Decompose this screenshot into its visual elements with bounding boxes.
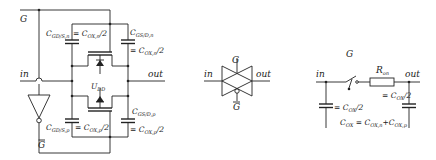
cap-value-gsd-p: = COX,p/2: [130, 125, 164, 136]
cox-equation: COX = COX,n+COX,p: [340, 118, 408, 129]
symbol-output-label: out: [256, 69, 271, 79]
gate-label: G: [20, 14, 27, 24]
transmission-gate-symbol: G G in out: [204, 55, 271, 112]
symbol-gate-bar-label: G: [233, 102, 240, 112]
input-label: in: [20, 69, 29, 79]
cap-value-gds-p: = COX,p/2: [75, 123, 109, 134]
cap-in-label: = COX/2: [334, 103, 364, 113]
model-input-label: in: [316, 69, 325, 79]
symbol-input-label: in: [204, 69, 213, 79]
output-label: out: [148, 69, 163, 79]
left-circuit: G in out G UDD CGD/S,n = COX,n/2 CGS/D,n…: [20, 9, 165, 153]
cap-label-gsd-p: CGS/D,p: [132, 107, 156, 118]
cap-out-label: = COX/2: [382, 91, 412, 101]
cap-label-gds-p: CGD/S,p: [46, 123, 70, 134]
symbol-gate-label: G: [232, 55, 239, 65]
cap-label-gsd-n: CGS/D,n: [130, 28, 154, 38]
model-gate-label: G: [346, 49, 353, 59]
gate-bar-label: G: [38, 140, 45, 150]
cap-value-gsd-n: = COX,n/2: [130, 46, 164, 56]
cap-value-gds-n: = COX,n/2: [73, 29, 107, 39]
cap-label-gds-n: CGD/S,n: [46, 29, 70, 39]
switch-model: G in out Ron = COX/2 = COX/2 COX = COX,n…: [316, 49, 420, 129]
resistor-label: Ron: [375, 65, 389, 76]
transmission-gate-figure: G in out G UDD CGD/S,n = COX,n/2 CGS/D,n…: [0, 0, 436, 160]
supply-label: UDD: [91, 82, 105, 92]
model-output-label: out: [405, 69, 420, 79]
